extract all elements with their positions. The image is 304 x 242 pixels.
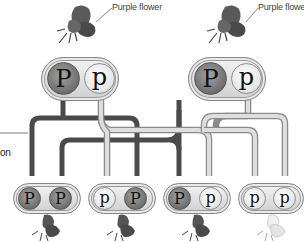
allele-dominant: P [18, 187, 41, 210]
side-label: on [0, 147, 11, 158]
offspring-genotype-3: P p [163, 183, 231, 214]
parent-flower-1 [55, 3, 103, 45]
flower-white-icon [255, 213, 291, 242]
flower-purple-icon [105, 213, 141, 242]
flower-purple-icon [55, 3, 103, 45]
allele-dominant: P [49, 187, 72, 210]
parent-genotype-2: P p [188, 57, 266, 101]
allele-recessive: p [231, 63, 262, 94]
allele-recessive: p [199, 187, 222, 210]
allele-dominant: P [47, 62, 80, 95]
offspring-flower-4 [255, 213, 291, 242]
flower-purple-icon [30, 213, 66, 242]
allele-dominant: P [124, 187, 147, 210]
offspring-flower-1 [30, 213, 66, 242]
allele-dominant: P [168, 187, 191, 210]
allele-recessive: p [93, 187, 116, 210]
parent-flower-label-2: Purple flower [258, 2, 304, 12]
parent-flower-2 [205, 3, 253, 45]
allele-recessive: p [84, 63, 115, 94]
allele-recessive: p [243, 187, 266, 210]
flower-purple-icon [205, 3, 253, 45]
offspring-flower-2 [105, 213, 141, 242]
allele-dominant: P [194, 62, 227, 95]
parent-genotype-1: P p [41, 57, 119, 101]
offspring-genotype-2: p P [88, 183, 156, 214]
offspring-genotype-4: p p [238, 183, 304, 214]
offspring-flower-3 [180, 213, 216, 242]
flower-purple-icon [180, 213, 216, 242]
allele-recessive: p [273, 187, 296, 210]
offspring-genotype-1: P P [13, 183, 81, 214]
parent-flower-label-1: Purple flower [112, 2, 162, 12]
